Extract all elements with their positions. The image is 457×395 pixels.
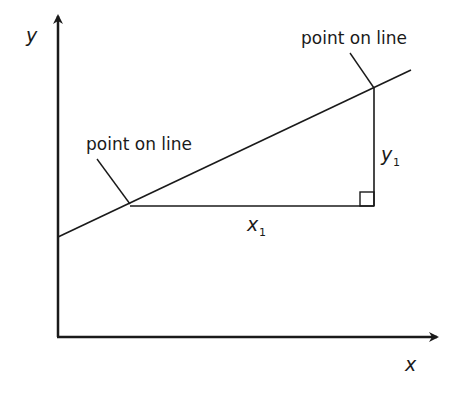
y-axis-label: y <box>25 24 38 46</box>
svg-text:y: y <box>380 143 393 165</box>
right-angle-marker <box>360 192 374 206</box>
left-point-leader <box>97 159 130 204</box>
top-point-leader <box>350 53 374 88</box>
left-point-label: point on line <box>86 134 192 154</box>
x-axis-label: x <box>404 353 417 375</box>
slope-diagram: y x point on line point on line x 1 y 1 <box>0 0 457 395</box>
top-point-label: point on line <box>301 28 407 48</box>
svg-text:1: 1 <box>259 226 266 239</box>
run-label: x 1 <box>246 213 266 239</box>
svg-text:x: x <box>246 213 259 235</box>
rise-label: y 1 <box>380 143 400 169</box>
svg-text:1: 1 <box>393 156 400 169</box>
